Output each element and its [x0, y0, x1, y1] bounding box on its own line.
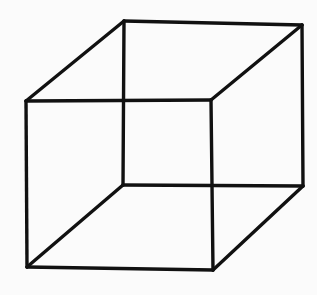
cube-edge-back-top-right-to-back-bottom-right: [302, 25, 303, 186]
cube-edge-back-top-left-to-back-bottom-left: [123, 21, 124, 185]
cube-edge-back-top-right-to-front-top-right: [211, 25, 302, 100]
cube-edge-back-bottom-left-to-front-bottom-left: [27, 185, 123, 267]
cube-edge-back-top-left-to-front-top-left: [26, 21, 124, 101]
cube-edge-front-bottom-left-to-front-bottom-right: [27, 267, 213, 270]
cube-edge-front-top-right-to-front-bottom-right: [211, 100, 213, 270]
cube-edge-back-top-left-to-back-top-right: [124, 21, 302, 25]
necker-cube-diagram: [0, 0, 317, 295]
cube-edge-front-top-left-to-front-top-right: [26, 100, 211, 101]
cube-edge-front-top-left-to-front-bottom-left: [26, 101, 27, 267]
cube-edge-back-bottom-right-to-front-bottom-right: [213, 186, 303, 270]
